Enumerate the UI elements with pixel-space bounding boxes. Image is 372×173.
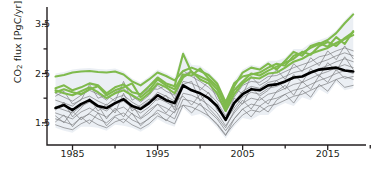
x-tick-label: 2005 <box>223 148 263 159</box>
y-tick-label: 2.5 <box>26 68 50 79</box>
chart-figure: CO2 flux [PgC/yr] 1.5 2.5 3.5 1985 1995 … <box>0 0 372 173</box>
x-tick-label: 2015 <box>308 148 348 159</box>
y-tick-label: 3.5 <box>26 18 50 29</box>
x-tick-label: 1995 <box>138 148 178 159</box>
x-tick-label: 1985 <box>53 148 93 159</box>
y-tick-label: 1.5 <box>26 117 50 128</box>
